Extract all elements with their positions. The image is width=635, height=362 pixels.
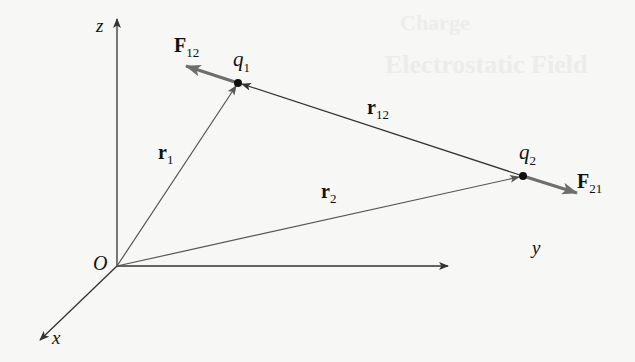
F21-label: F21	[577, 170, 602, 196]
r2-vector	[117, 177, 519, 266]
x-axis-label: x	[51, 327, 61, 348]
origin-label: O	[93, 252, 107, 274]
F12-label: F12	[174, 34, 199, 60]
z-axis-label: z	[95, 15, 104, 36]
charge-q2-dot	[519, 172, 527, 180]
F21-force-vector	[523, 176, 577, 193]
charge-q1-dot	[234, 79, 242, 87]
charge-q2-label: q2	[519, 140, 536, 168]
F12-force-vector	[186, 66, 238, 83]
r12-label: r12	[367, 96, 389, 122]
r1-vector	[117, 86, 236, 266]
charge-q1-label: q1	[233, 47, 250, 75]
y-axis-label: y	[530, 237, 541, 258]
r1-label: r1	[158, 141, 173, 167]
r2-label: r2	[321, 180, 336, 206]
coulomb-diagram: z y x O q1 q2 F12 F21 r1 r2 r12	[0, 0, 635, 362]
r12-vector	[242, 84, 523, 176]
